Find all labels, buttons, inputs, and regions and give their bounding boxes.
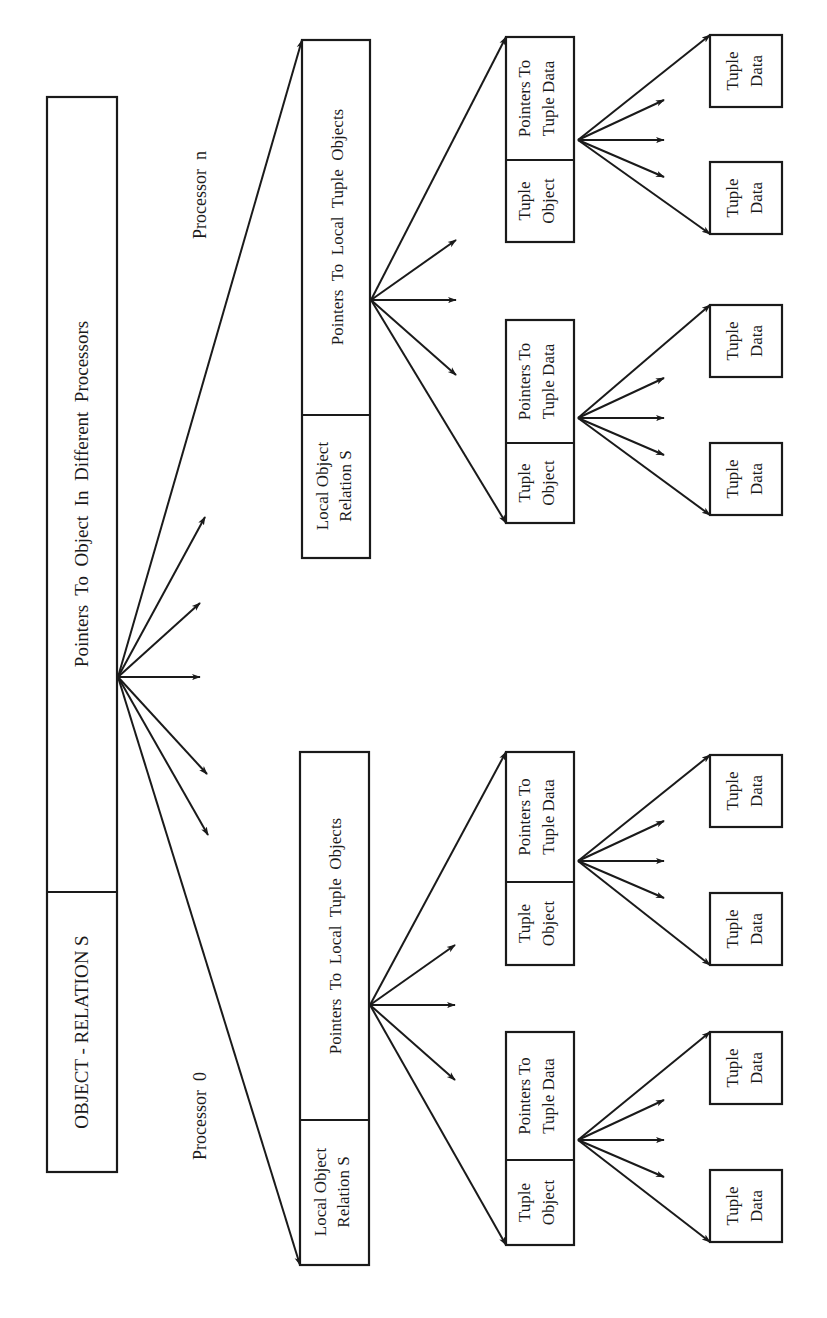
root-to-processor-0-arrow bbox=[118, 677, 300, 1265]
tuple-object-label-line1: Tuple bbox=[515, 181, 534, 220]
tuple-data-pointer-arrow bbox=[578, 1140, 710, 1242]
tuple-pointers-label-line2: Tuple Data bbox=[539, 779, 558, 855]
tuple-fan-arrow bbox=[578, 1140, 664, 1177]
tuple-data-label-line2: Data bbox=[747, 1052, 766, 1085]
tuple-data-label-line2: Data bbox=[747, 775, 766, 808]
tuple-data-pointer-arrow bbox=[578, 418, 710, 515]
local-relation-name-line1: Local Object bbox=[313, 442, 332, 531]
tuple-data-box bbox=[710, 162, 782, 234]
tuple-data-box bbox=[710, 305, 782, 377]
tuple-pointers-label-line2: Tuple Data bbox=[539, 1058, 558, 1134]
tuple-data-label-line1: Tuple bbox=[723, 1048, 742, 1087]
local-relation-name-line2: Relation S bbox=[336, 450, 355, 521]
tuple-data-pointer-arrow bbox=[578, 861, 710, 965]
local-relation-name-line1: Local Object bbox=[311, 1148, 330, 1237]
tuple-pointers-label-line1: Pointers To bbox=[515, 343, 534, 420]
processor-0-label: Processor 0 bbox=[190, 1072, 210, 1160]
tuple-data-box bbox=[710, 1032, 782, 1104]
processor-n-local-relation-box: Local Object Relation S Pointers To Loca… bbox=[302, 40, 370, 558]
tuple-data-box bbox=[710, 1170, 782, 1242]
local-relation-pointers-label: Pointers To Local Tuple Objects bbox=[326, 818, 345, 1055]
tuples-layer: TupleObjectPointers ToTuple DataTupleDat… bbox=[506, 35, 782, 1245]
tuple-data-label-line2: Data bbox=[747, 325, 766, 358]
tuple-data-box bbox=[710, 35, 782, 107]
tuple-pointers-label-line2: Tuple Data bbox=[539, 343, 558, 419]
tuple-data-label-line1: Tuple bbox=[723, 51, 742, 90]
processor-n-fan-arrow bbox=[371, 300, 456, 375]
tuple-object-label-line2: Object bbox=[539, 178, 558, 224]
processor-0-tuple-pointer-arrow bbox=[370, 752, 506, 1005]
processor-n-tuple-pointer-arrow bbox=[371, 37, 506, 300]
tuple-object-label-line2: Object bbox=[539, 460, 558, 506]
tuple-data-label-line1: Tuple bbox=[723, 321, 742, 360]
tuple-data-pointer-arrow bbox=[578, 35, 710, 140]
tuple-pointers-label-line1: Pointers To bbox=[515, 778, 534, 855]
tuple-data-label-line2: Data bbox=[747, 1190, 766, 1223]
tuple-data-pointer-arrow bbox=[578, 305, 710, 418]
processor-0-local-relation-box: Local Object Relation S Pointers To Loca… bbox=[300, 752, 369, 1265]
tuple-pointers-label-line1: Pointers To bbox=[515, 60, 534, 137]
root-fan-arrow bbox=[118, 517, 205, 677]
tuple-data-label-line1: Tuple bbox=[723, 909, 742, 948]
tuple-pointers-label-line2: Tuple Data bbox=[539, 60, 558, 136]
tuple-data-box bbox=[710, 893, 782, 965]
root-pointers-label: Pointers To Object In Different Processo… bbox=[71, 321, 92, 667]
tuple-object-label-line2: Object bbox=[539, 901, 558, 947]
tuple-data-box bbox=[710, 443, 782, 515]
tuple-data-label-line1: Tuple bbox=[723, 1186, 742, 1225]
tuple-object-label-line2: Object bbox=[539, 1180, 558, 1226]
tuple-data-label-line1: Tuple bbox=[723, 178, 742, 217]
processor-n-fan-arrow bbox=[371, 240, 456, 300]
root-name-label: OBJECT - RELATION S bbox=[71, 935, 92, 1128]
tuple-data-box bbox=[710, 755, 782, 827]
tuple-object-label-line1: Tuple bbox=[515, 904, 534, 943]
tuple-data-label-line2: Data bbox=[747, 182, 766, 215]
root-object-relation-box: OBJECT - RELATION S Pointers To Object I… bbox=[47, 97, 117, 1172]
tuple-data-label-line2: Data bbox=[747, 913, 766, 946]
tuple-fan-arrow bbox=[578, 861, 664, 898]
processor-0-fan-arrow bbox=[370, 945, 455, 1005]
object-relation-diagram: OBJECT - RELATION S Pointers To Object I… bbox=[0, 0, 827, 1318]
processor-n-tuple-pointer-arrow bbox=[371, 300, 506, 523]
tuple-data-label-line1: Tuple bbox=[723, 771, 742, 810]
tuple-object-label-line1: Tuple bbox=[515, 1183, 534, 1222]
local-relation-pointers-label: Pointers To Local Tuple Objects bbox=[328, 109, 347, 346]
root-fan-arrow bbox=[118, 677, 207, 774]
tuple-data-pointer-arrow bbox=[578, 140, 710, 234]
processor-0-fan-arrow bbox=[370, 1005, 455, 1080]
tuple-data-pointer-arrow bbox=[578, 1032, 710, 1140]
tuple-pointers-label-line1: Pointers To bbox=[515, 1057, 534, 1134]
tuple-data-label-line2: Data bbox=[747, 55, 766, 88]
processor-0-tuple-pointer-arrow bbox=[370, 1005, 506, 1245]
root-fan-arrow bbox=[118, 603, 200, 677]
root-fan-arrow bbox=[118, 677, 208, 835]
tuple-data-pointer-arrow bbox=[578, 755, 710, 861]
tuple-data-label-line1: Tuple bbox=[723, 459, 742, 498]
local-relation-name-line2: Relation S bbox=[334, 1156, 353, 1227]
tuple-fan-arrow bbox=[578, 378, 664, 418]
tuple-data-label-line2: Data bbox=[747, 463, 766, 496]
processor-n-label: Processor n bbox=[190, 151, 210, 239]
root-to-processor-n-arrow bbox=[118, 40, 302, 677]
tuple-object-label-line1: Tuple bbox=[515, 463, 534, 502]
